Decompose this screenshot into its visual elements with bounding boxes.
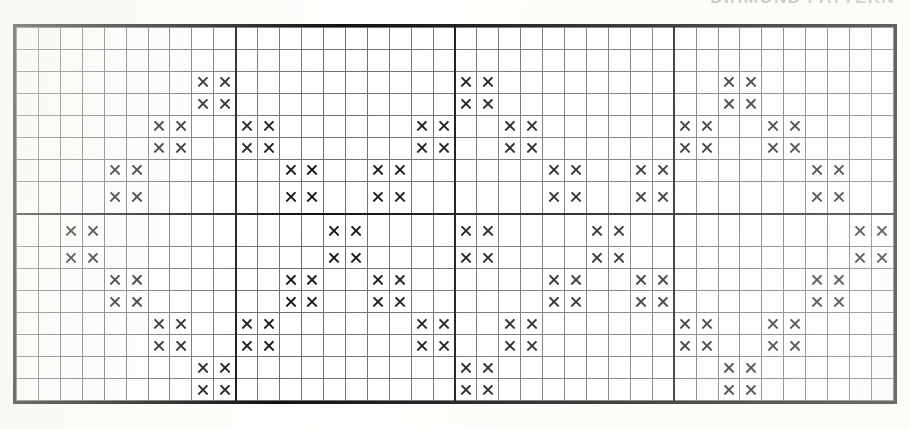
stitch-cell-empty[interactable] [367,115,389,137]
stitch-cell-empty[interactable] [301,379,323,401]
stitch-cell-empty[interactable] [828,357,850,379]
stitch-cell-empty[interactable] [652,313,674,335]
stitch-cell-empty[interactable] [828,49,850,71]
stitch-cell-filled[interactable] [301,181,323,214]
stitch-cell-empty[interactable] [718,247,740,269]
stitch-cell-empty[interactable] [367,214,389,247]
stitch-cell-filled[interactable] [345,247,367,269]
stitch-cell-empty[interactable] [38,115,60,137]
stitch-cell-empty[interactable] [586,335,608,357]
stitch-cell-filled[interactable] [543,159,565,181]
stitch-cell-empty[interactable] [586,28,608,50]
stitch-cell-empty[interactable] [389,115,411,137]
stitch-cell-empty[interactable] [696,71,718,93]
stitch-cell-filled[interactable] [411,137,433,159]
stitch-cell-empty[interactable] [455,269,477,291]
stitch-cell-empty[interactable] [345,137,367,159]
stitch-cell-empty[interactable] [477,269,499,291]
stitch-cell-empty[interactable] [652,93,674,115]
stitch-cell-empty[interactable] [784,93,806,115]
stitch-cell-filled[interactable] [367,291,389,313]
stitch-cell-empty[interactable] [148,181,170,214]
stitch-cell-empty[interactable] [345,71,367,93]
stitch-cell-filled[interactable] [521,313,543,335]
stitch-cell-filled[interactable] [367,269,389,291]
stitch-cell-empty[interactable] [740,269,762,291]
stitch-cell-empty[interactable] [850,181,872,214]
stitch-cell-filled[interactable] [433,313,455,335]
stitch-cell-empty[interactable] [389,379,411,401]
stitch-cell-empty[interactable] [104,115,126,137]
stitch-cell-empty[interactable] [38,71,60,93]
stitch-cell-filled[interactable] [608,214,630,247]
stitch-cell-empty[interactable] [367,93,389,115]
stitch-cell-empty[interactable] [674,93,696,115]
stitch-cell-filled[interactable] [411,335,433,357]
stitch-cell-empty[interactable] [586,159,608,181]
stitch-cell-empty[interactable] [104,379,126,401]
stitch-cell-empty[interactable] [280,335,302,357]
stitch-cell-empty[interactable] [345,28,367,50]
stitch-cell-empty[interactable] [345,291,367,313]
stitch-cell-filled[interactable] [696,115,718,137]
stitch-cell-empty[interactable] [258,214,280,247]
stitch-cell-empty[interactable] [696,214,718,247]
stitch-cell-filled[interactable] [126,181,148,214]
stitch-cell-empty[interactable] [674,379,696,401]
stitch-cell-empty[interactable] [806,379,828,401]
stitch-cell-filled[interactable] [740,357,762,379]
stitch-cell-filled[interactable] [784,313,806,335]
stitch-cell-empty[interactable] [477,28,499,50]
stitch-cell-empty[interactable] [301,313,323,335]
stitch-cell-empty[interactable] [38,159,60,181]
stitch-cell-empty[interactable] [148,159,170,181]
stitch-cell-empty[interactable] [543,137,565,159]
stitch-cell-empty[interactable] [718,159,740,181]
stitch-cell-empty[interactable] [850,71,872,93]
stitch-cell-empty[interactable] [301,137,323,159]
stitch-cell-empty[interactable] [608,291,630,313]
stitch-cell-empty[interactable] [521,49,543,71]
stitch-cell-filled[interactable] [784,335,806,357]
stitch-cell-empty[interactable] [499,247,521,269]
stitch-cell-filled[interactable] [696,137,718,159]
stitch-cell-filled[interactable] [258,335,280,357]
stitch-cell-filled[interactable] [652,269,674,291]
stitch-cell-filled[interactable] [477,379,499,401]
stitch-cell-empty[interactable] [17,181,39,214]
stitch-cell-empty[interactable] [433,291,455,313]
stitch-cell-filled[interactable] [652,159,674,181]
stitch-cell-filled[interactable] [301,159,323,181]
stitch-cell-empty[interactable] [323,115,345,137]
stitch-cell-empty[interactable] [214,269,236,291]
stitch-cell-empty[interactable] [38,28,60,50]
stitch-cell-empty[interactable] [565,115,587,137]
stitch-cell-empty[interactable] [696,291,718,313]
stitch-cell-empty[interactable] [104,335,126,357]
stitch-cell-empty[interactable] [170,379,192,401]
stitch-cell-filled[interactable] [323,247,345,269]
stitch-cell-empty[interactable] [170,357,192,379]
stitch-cell-filled[interactable] [148,115,170,137]
stitch-cell-empty[interactable] [17,335,39,357]
stitch-cell-empty[interactable] [608,28,630,50]
stitch-cell-empty[interactable] [565,379,587,401]
stitch-cell-filled[interactable] [740,71,762,93]
stitch-cell-filled[interactable] [236,313,258,335]
stitch-cell-empty[interactable] [608,313,630,335]
stitch-cell-empty[interactable] [192,214,214,247]
stitch-cell-empty[interactable] [258,159,280,181]
stitch-cell-empty[interactable] [170,247,192,269]
stitch-cell-empty[interactable] [608,115,630,137]
stitch-cell-filled[interactable] [170,313,192,335]
stitch-cell-empty[interactable] [762,357,784,379]
stitch-cell-empty[interactable] [433,71,455,93]
stitch-cell-filled[interactable] [586,247,608,269]
stitch-cell-empty[interactable] [455,115,477,137]
stitch-cell-filled[interactable] [192,357,214,379]
stitch-cell-empty[interactable] [301,49,323,71]
stitch-cell-empty[interactable] [323,291,345,313]
stitch-cell-filled[interactable] [499,137,521,159]
stitch-cell-empty[interactable] [828,313,850,335]
stitch-cell-empty[interactable] [280,71,302,93]
